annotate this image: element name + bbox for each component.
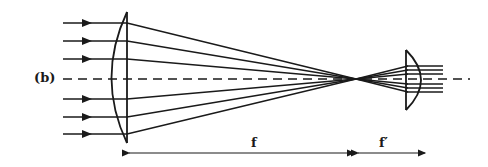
focal-length-prime-label: f′ — [379, 135, 388, 150]
focal-length-label: f — [251, 135, 257, 150]
beam-expander-diagram — [0, 0, 488, 167]
objective-lens — [112, 12, 128, 143]
eyepiece-lens — [406, 50, 421, 110]
panel-label: (b) — [34, 70, 55, 85]
